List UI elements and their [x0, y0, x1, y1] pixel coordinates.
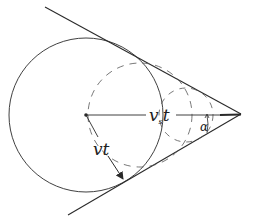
- radius-line-upper: [86, 115, 98, 137]
- label-source-distance: vst: [149, 105, 170, 126]
- upper-envelope-line: [45, 7, 241, 114]
- label-half-angle: α: [200, 120, 208, 134]
- radius-arrow: [108, 156, 123, 179]
- mach-cone-diagram: vst vt α: [0, 0, 254, 219]
- label-wave-radius: vt: [93, 139, 110, 159]
- source-distance-line-thick: [220, 115, 241, 116]
